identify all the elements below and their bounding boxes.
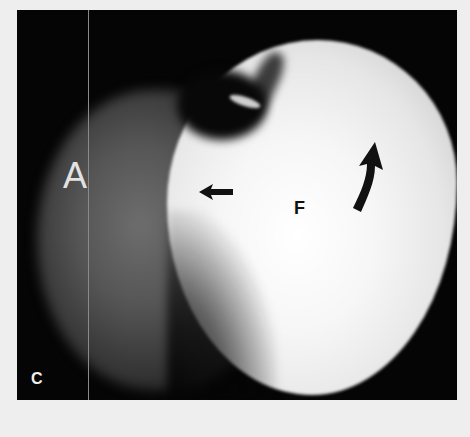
label-f: F xyxy=(294,198,305,219)
arthroscopic-image-panel: A F C xyxy=(17,10,457,400)
vertical-reference-line xyxy=(88,10,89,400)
edge-shadow xyxy=(167,210,277,400)
curved-arrow-icon xyxy=(347,140,387,212)
panel-label: C xyxy=(31,370,43,388)
straight-arrow-icon xyxy=(199,184,235,200)
label-a: A xyxy=(63,155,87,197)
